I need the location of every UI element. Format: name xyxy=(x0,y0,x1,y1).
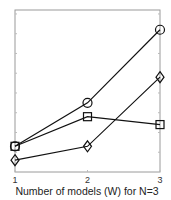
x-tick-label-1: 1 xyxy=(12,175,17,185)
line-chart: 1 2 3 Number of models (W) for N=3 xyxy=(0,0,171,200)
plot-area xyxy=(15,10,160,172)
x-tick-label-3: 3 xyxy=(157,175,162,185)
x-axis-label: Number of models (W) for N=3 xyxy=(15,185,158,197)
x-tick-label-2: 2 xyxy=(85,175,90,185)
